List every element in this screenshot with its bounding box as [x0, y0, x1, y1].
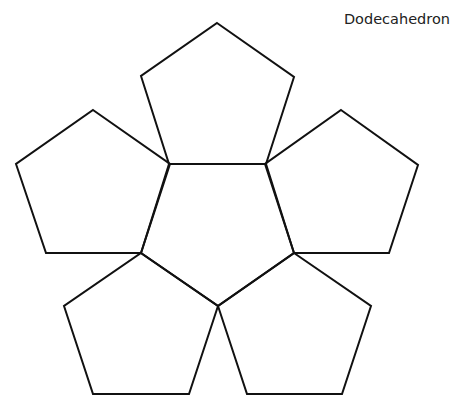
dodecahedron-net — [0, 0, 460, 411]
face-top — [141, 23, 294, 164]
face-bottom-right — [218, 253, 371, 394]
face-right — [265, 110, 418, 253]
face-bottom-left — [64, 253, 218, 394]
